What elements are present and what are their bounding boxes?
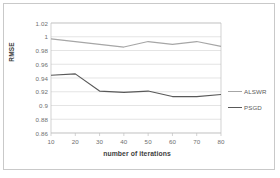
x-tick-label: 60 [162,138,182,145]
legend-line-swatch [228,107,242,108]
legend-label: ALSWR [244,88,267,95]
x-tick-label: 70 [187,138,207,145]
x-tick-label: 10 [41,138,61,145]
y-tick-label: 0.98 [18,47,48,54]
y-tick-label: 0.9 [18,102,48,109]
legend-item-psgd[interactable]: PSGD [228,104,262,111]
y-axis-title: RMSE [8,24,15,80]
chart-frame: 1.0210.980.960.940.920.90.880.86 1020304… [3,3,275,170]
y-tick-label: 1.02 [18,20,48,27]
legend-label: PSGD [244,104,262,111]
y-tick-label: 1 [18,33,48,40]
y-tick-label: 0.96 [18,61,48,68]
y-tick-label: 0.92 [18,88,48,95]
legend-line-swatch [228,91,242,92]
y-tick-label: 0.86 [18,130,48,137]
y-tick-label: 0.88 [18,116,48,123]
y-tick-label: 0.94 [18,75,48,82]
x-tick-label: 80 [211,138,231,145]
legend-item-alswr[interactable]: ALSWR [228,88,267,95]
x-tick-label: 40 [114,138,134,145]
x-axis-title: number of iterations [51,150,223,157]
x-tick-label: 50 [138,138,158,145]
line-chart-canvas [4,4,275,170]
x-tick-marks [51,133,221,136]
x-tick-label: 20 [65,138,85,145]
x-tick-label: 30 [90,138,110,145]
